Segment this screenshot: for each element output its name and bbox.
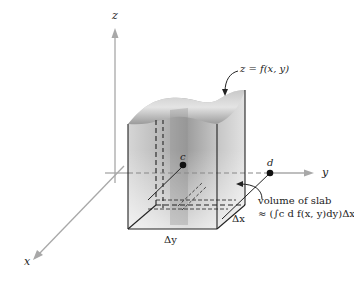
- surface-label: z = f(x, y): [240, 63, 289, 74]
- point-c: [180, 162, 187, 169]
- x-axis: [33, 166, 124, 260]
- delta-x-label: Δx: [232, 213, 245, 224]
- surface-arrow: [225, 71, 238, 92]
- annotation-line2: ≈ (∫c d f(x, y)dy)Δx: [258, 208, 354, 219]
- volume-diagram: [0, 0, 354, 281]
- z-axis: [112, 28, 119, 183]
- point-d-label: d: [267, 157, 273, 168]
- delta-y-label: Δy: [164, 234, 177, 245]
- annotation-line1: volume of slab: [258, 195, 331, 206]
- figure-canvas: z y x z = f(x, y) c d Δx Δy volume of sl…: [0, 0, 354, 281]
- y-axis-label: y: [322, 166, 328, 179]
- z-axis-label: z: [112, 9, 118, 22]
- x-axis-label: x: [24, 255, 30, 268]
- point-c-label: c: [180, 151, 186, 162]
- point-d: [267, 170, 274, 177]
